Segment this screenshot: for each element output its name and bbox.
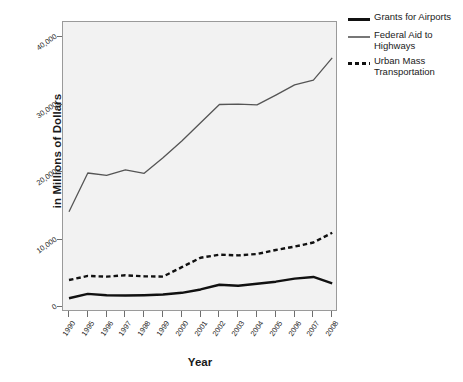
legend-item-label: Federal Aid to Highways <box>374 30 462 51</box>
x-tick-mark <box>124 311 125 317</box>
y-tick-label: 10,000 <box>16 234 59 268</box>
x-tick-mark <box>294 311 295 317</box>
x-tick-mark <box>162 311 163 317</box>
x-tick-mark <box>87 311 88 317</box>
x-axis-title: Year <box>62 356 338 368</box>
x-tick-mark <box>143 311 144 317</box>
x-tick-mark <box>68 311 69 317</box>
y-tick-label: 0 <box>16 302 59 336</box>
x-tick-mark <box>312 311 313 317</box>
legend-swatch-icon <box>348 30 370 43</box>
line-chart: in Millions of Dollars 010,00020,00030,0… <box>0 0 463 382</box>
series-line <box>69 277 332 298</box>
x-tick-mark <box>256 311 257 317</box>
legend-item[interactable]: Federal Aid to Highways <box>348 30 462 51</box>
legend-swatch-icon <box>348 12 370 25</box>
legend-item-label: Urban Mass Transportation <box>374 56 462 77</box>
chart-legend: Grants for AirportsFederal Aid to Highwa… <box>348 12 462 82</box>
plot-area <box>62 21 337 311</box>
x-tick-mark <box>237 311 238 317</box>
legend-item-label: Grants for Airports <box>374 12 451 23</box>
plot-lines <box>63 22 338 312</box>
x-tick-mark <box>331 311 332 317</box>
legend-item[interactable]: Urban Mass Transportation <box>348 56 462 77</box>
x-tick-mark <box>218 311 219 317</box>
x-tick-mark <box>181 311 182 317</box>
series-line <box>69 58 332 212</box>
x-tick-mark <box>200 311 201 317</box>
x-tick-mark <box>275 311 276 317</box>
series-line <box>69 233 332 280</box>
x-tick-mark <box>106 311 107 317</box>
legend-item[interactable]: Grants for Airports <box>348 12 462 25</box>
legend-swatch-icon <box>348 56 370 69</box>
